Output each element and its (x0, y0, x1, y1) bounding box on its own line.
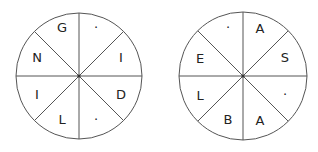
sector-label: · (226, 20, 230, 35)
diagram-canvas: G · I D · L I N · A S · A B L E (0, 0, 318, 152)
sector-label: · (94, 20, 98, 35)
sector-label: · (283, 87, 287, 102)
sector-label: A (256, 113, 265, 128)
sector-label: B (224, 112, 233, 127)
right-wheel: · A S · A B L E (179, 12, 307, 140)
sector-label: S (281, 50, 289, 65)
sector-label: G (57, 20, 67, 35)
center-dot (241, 74, 244, 77)
center-dot (77, 74, 80, 77)
sector-label: N (32, 50, 42, 65)
sector-label: I (35, 87, 39, 102)
sector-label: · (94, 112, 98, 127)
sector-label: L (196, 88, 204, 103)
sector-label: D (116, 87, 126, 102)
sector-label: A (256, 21, 265, 36)
sector-label: E (196, 51, 204, 66)
sector-label: I (119, 50, 123, 65)
left-wheel: G · I D · L I N (16, 13, 142, 139)
sector-label: L (58, 112, 66, 127)
